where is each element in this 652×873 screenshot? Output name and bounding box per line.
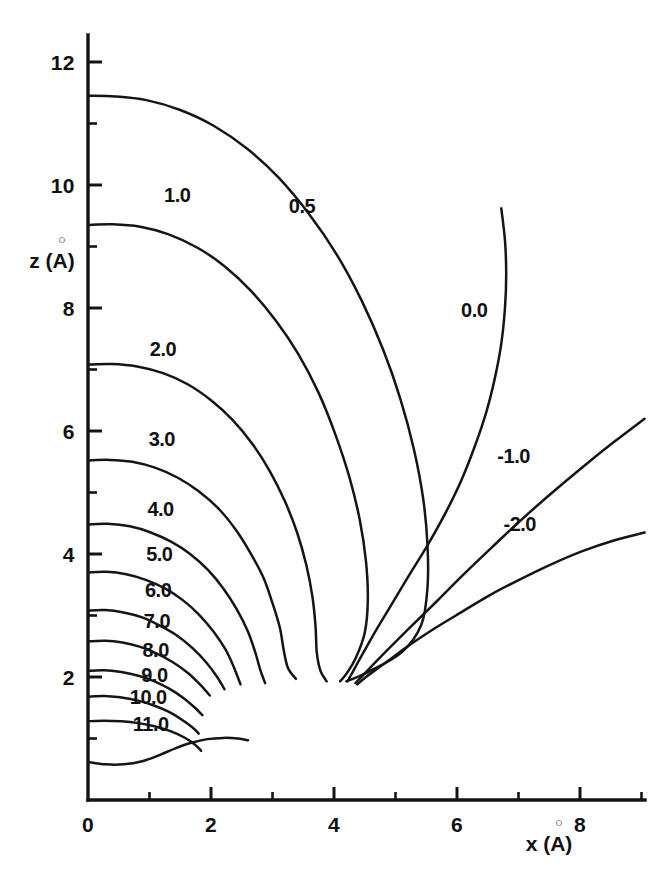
- z-axis-angstrom-ring-icon: ○: [58, 232, 66, 247]
- contour-label: 0.0: [461, 299, 488, 321]
- x-axis-title-text: x (A): [526, 832, 573, 855]
- z-tick-label: 12: [51, 51, 75, 74]
- contour-label: 9.0: [141, 664, 168, 686]
- x-axis-tick-labels: 02468: [82, 813, 586, 836]
- contour-line: [88, 738, 248, 765]
- z-axis-title-text: z (A): [29, 249, 75, 272]
- z-axis-title: z (A) ○: [29, 232, 75, 272]
- contour-line: [88, 524, 265, 683]
- contour-label: 5.0: [146, 543, 173, 565]
- contour-label: 3.0: [149, 428, 176, 450]
- z-tick-label: 4: [63, 543, 75, 566]
- z-tick-label: 10: [51, 174, 75, 197]
- contour-line: [357, 532, 644, 684]
- contour-label: -2.0: [503, 513, 536, 535]
- contour-label: 6.0: [145, 579, 172, 601]
- contour-plot-svg: 0.51.02.03.04.05.06.07.08.09.010.011.00.…: [0, 0, 652, 873]
- contour-label: -1.0: [497, 445, 530, 467]
- axes-group: [88, 35, 645, 800]
- contour-label: 4.0: [147, 498, 174, 520]
- x-axis-angstrom-ring-icon: ○: [555, 815, 563, 830]
- contour-label: 10.0: [130, 686, 167, 708]
- x-axis-title: x (A) ○: [526, 815, 573, 855]
- z-tick-label: 8: [63, 297, 75, 320]
- z-tick-label: 6: [63, 420, 75, 443]
- contour-label: 8.0: [142, 639, 169, 661]
- x-tick-label: 8: [574, 813, 586, 836]
- contour-label: 7.0: [144, 610, 171, 632]
- contour-label: 2.0: [150, 338, 177, 360]
- contour-labels-group: 0.51.02.03.04.05.06.07.08.09.010.011.00.…: [130, 184, 537, 735]
- contour-label: 11.0: [133, 713, 169, 735]
- x-tick-label: 0: [82, 813, 94, 836]
- x-axis-ticks: [150, 787, 642, 800]
- x-tick-label: 4: [328, 813, 340, 836]
- contour-line: [88, 364, 327, 681]
- contour-label: 0.5: [289, 195, 316, 217]
- x-tick-label: 6: [451, 813, 463, 836]
- contour-figure: 0.51.02.03.04.05.06.07.08.09.010.011.00.…: [0, 0, 652, 873]
- z-axis-tick-labels: 24681012: [51, 51, 75, 689]
- x-tick-label: 2: [205, 813, 217, 836]
- z-tick-label: 2: [63, 666, 75, 689]
- z-axis-ticks: [88, 62, 102, 739]
- contour-label: 1.0: [164, 184, 191, 206]
- contour-line: [88, 96, 428, 681]
